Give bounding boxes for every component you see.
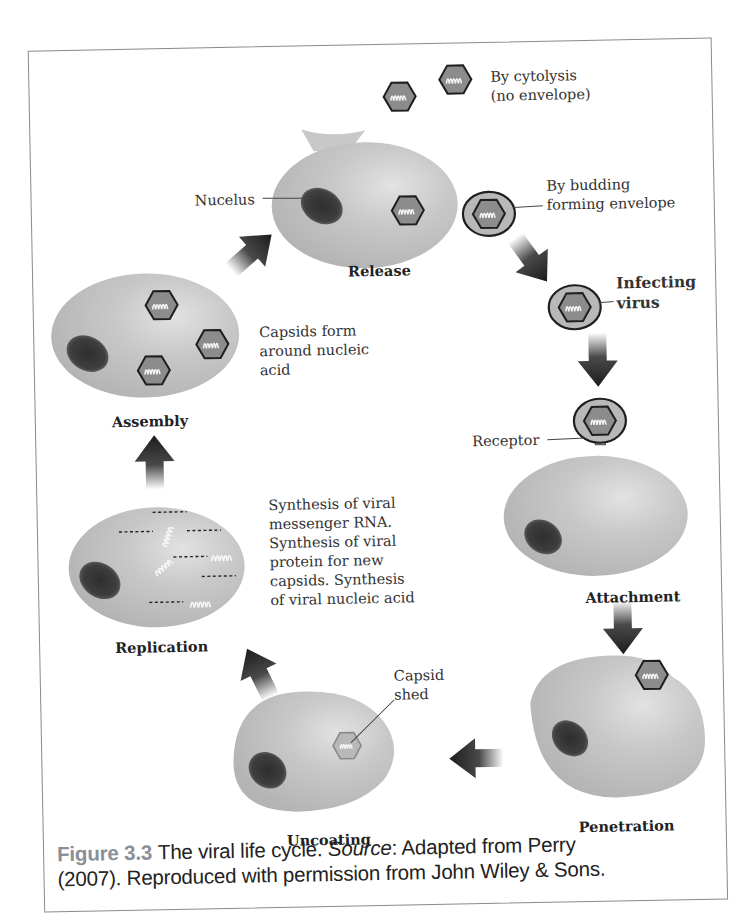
attachment-cell (501, 397, 688, 577)
infecting-virus-label-1: Infecting (616, 272, 696, 293)
infecting-virus-label-2: virus (616, 293, 659, 313)
stage-attachment: Attachment (585, 587, 680, 606)
figure-caption: Figure 3.3The viral life cycle. Source: … (57, 831, 606, 892)
stage-assembly: Assembly (112, 412, 189, 430)
budding-label-2: forming envelope (547, 193, 676, 214)
released-capsid-2 (439, 65, 472, 94)
viral-life-cycle-diagram (0, 0, 749, 922)
budding-label-1: By budding (546, 175, 630, 196)
assembly-note: Capsids form around nucleic acid (259, 321, 370, 380)
replication-cell (67, 506, 245, 629)
cytolysis-label-2: (no envelope) (490, 85, 590, 106)
assembly-cell (50, 272, 240, 400)
stage-replication: Replication (115, 637, 208, 656)
budding-virus (462, 191, 515, 236)
receptor-label: Receptor (472, 431, 539, 451)
capsid-shed-label-2: shed (394, 685, 429, 705)
cytolysis-label-1: By cytolysis (490, 66, 577, 87)
figure-page: Nucelus By cytolysis (no envelope) By bu… (0, 0, 749, 922)
figure-number: Figure 3.3 (57, 840, 152, 865)
source-label: Source (328, 836, 392, 860)
released-capsid-1 (383, 82, 416, 111)
capsid-shed-label-1: Capsid (394, 666, 445, 686)
nucleus-label: Nucelus (194, 190, 255, 210)
stage-release: Release (348, 261, 411, 279)
penetration-cell (529, 654, 706, 799)
uncoating-cell (232, 690, 396, 813)
infecting-virus (548, 285, 601, 330)
replication-note: Synthesis of viral messenger RNA. Synthe… (268, 493, 415, 610)
